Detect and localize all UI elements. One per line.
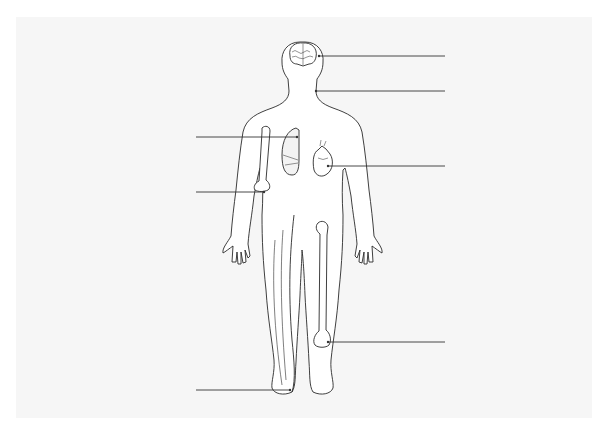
body-diagram — [0, 0, 607, 435]
body-outline — [223, 42, 382, 394]
